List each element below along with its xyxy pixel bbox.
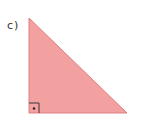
right-triangle bbox=[29, 18, 127, 113]
right-triangle-figure bbox=[0, 0, 160, 124]
